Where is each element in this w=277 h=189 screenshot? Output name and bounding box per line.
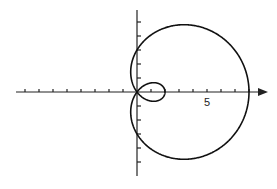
x-tick-label-5: 5	[204, 96, 210, 108]
axes	[16, 10, 268, 176]
x-axis-arrow-icon	[258, 88, 268, 96]
polar-plot: 5	[0, 0, 277, 189]
